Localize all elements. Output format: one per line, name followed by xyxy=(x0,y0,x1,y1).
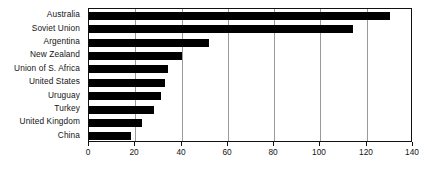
bar xyxy=(89,106,154,114)
x-axis-tick-label: 40 xyxy=(176,147,185,157)
category-label: Argentina xyxy=(44,37,80,46)
x-axis-tick xyxy=(227,142,228,146)
category-label: Australia xyxy=(47,10,80,19)
x-axis-tick xyxy=(134,142,135,146)
x-axis-tick-label: 100 xyxy=(312,147,326,157)
bar xyxy=(89,52,182,60)
category-label: Uruguay xyxy=(48,91,80,100)
category-label: United States xyxy=(29,77,80,86)
x-axis-tick-labels: 020406080100120140 xyxy=(88,147,412,161)
bar xyxy=(89,119,142,127)
bar xyxy=(89,12,390,20)
plot-area xyxy=(88,8,412,142)
x-axis-tick-label: 120 xyxy=(359,147,373,157)
category-axis-labels: AustraliaSoviet UnionArgentinaNew Zealan… xyxy=(0,8,84,142)
x-axis-line xyxy=(88,142,412,144)
x-axis-tick-label: 140 xyxy=(405,147,419,157)
x-axis-tick xyxy=(366,142,367,146)
category-label: Union of S. Africa xyxy=(14,64,80,73)
category-label: Turkey xyxy=(54,104,80,113)
x-axis-tick-label: 0 xyxy=(86,147,91,157)
category-label: United Kingdom xyxy=(20,117,80,126)
bar xyxy=(89,132,131,140)
x-axis-tick-label: 80 xyxy=(268,147,277,157)
x-axis-tick-label: 20 xyxy=(129,147,138,157)
bar-series xyxy=(89,9,411,141)
category-label: China xyxy=(58,131,80,140)
x-axis-tick xyxy=(88,142,89,146)
x-axis-tick xyxy=(181,142,182,146)
category-label: New Zealand xyxy=(30,50,80,59)
x-axis-tick xyxy=(273,142,274,146)
bar xyxy=(89,79,165,87)
x-axis-tick xyxy=(319,142,320,146)
x-axis-tick xyxy=(412,142,413,146)
bar-chart: AustraliaSoviet UnionArgentinaNew Zealan… xyxy=(0,0,426,173)
bar xyxy=(89,65,168,73)
x-axis-tick-label: 60 xyxy=(222,147,231,157)
bar xyxy=(89,25,353,33)
bar xyxy=(89,92,161,100)
category-label: Soviet Union xyxy=(32,24,80,33)
bar xyxy=(89,39,209,47)
